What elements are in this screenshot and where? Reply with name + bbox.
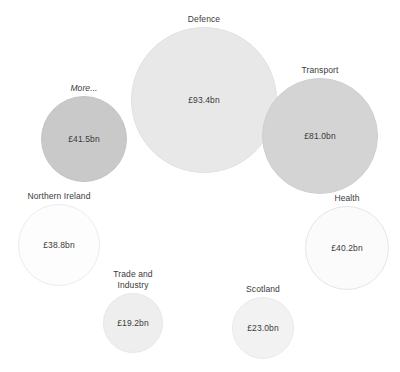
bubble-group: £81.0bn [262, 78, 378, 194]
bubble-group: £23.0bn [232, 297, 294, 359]
bubble-label: More... [14, 83, 154, 94]
bubble-label-line: Scotland [193, 284, 333, 295]
bubble-label: Northern Ireland [0, 191, 129, 202]
bubble-label-line: Transport [250, 65, 390, 76]
bubble-label: Trade andIndustry [63, 269, 203, 291]
bubble-label: Scotland [193, 284, 333, 295]
bubble-value: £81.0bn [262, 131, 378, 141]
bubble-label-line: Northern Ireland [0, 191, 129, 202]
bubble-group: £40.2bn [305, 206, 389, 290]
bubble-value: £23.0bn [232, 323, 294, 333]
bubble-value: £19.2bn [103, 318, 163, 328]
bubble-group: £19.2bn [103, 293, 163, 353]
bubble-label-line: Defence [134, 14, 274, 25]
bubble-value: £93.4bn [131, 95, 277, 105]
bubble-label-line: Health [277, 193, 400, 204]
bubble-label: Transport [250, 65, 390, 76]
bubble-label-line: Trade and [63, 269, 203, 280]
bubble-value: £38.8bn [18, 240, 100, 250]
bubble-chart: £93.4bnDefence£81.0bnTransport£41.5bnMor… [0, 0, 400, 372]
bubble-label-line: More... [14, 83, 154, 94]
bubble-label-line: Industry [63, 280, 203, 291]
bubble-value: £41.5bn [41, 134, 127, 144]
bubble-value: £40.2bn [305, 243, 389, 253]
bubble-label: Defence [134, 14, 274, 25]
bubble-label: Health [277, 193, 400, 204]
bubble-group: £41.5bn [41, 96, 127, 182]
bubble-group: £93.4bn [131, 27, 277, 173]
